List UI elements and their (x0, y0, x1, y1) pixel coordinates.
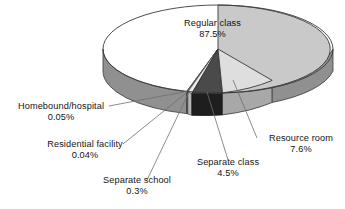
slice-label-residential-facility: Residential facility 0.04% (32, 139, 138, 162)
slice-label-separate-school: Separate school 0.3% (89, 175, 185, 198)
slice-label-resource-room: Resource room 7.6% (258, 133, 344, 156)
slice-label-homebound-hospital-name: Homebound/hospital (18, 101, 104, 111)
slice-label-separate-class-name: Separate class (197, 157, 259, 167)
slice-label-resource-room-name: Resource room (269, 133, 333, 143)
slice-separate-class (192, 49, 223, 94)
slice-label-separate-school-name: Separate school (103, 175, 171, 185)
slice-label-residential-facility-percent: 0.04% (32, 150, 138, 161)
slice-label-resource-room-percent: 7.6% (258, 144, 344, 155)
slice-label-separate-school-percent: 0.3% (89, 186, 185, 197)
slice-label-homebound-hospital-percent: 0.05% (2, 112, 120, 123)
slice-label-residential-facility-name: Residential facility (47, 139, 123, 149)
slice-label-homebound-hospital: Homebound/hospital 0.05% (2, 101, 120, 124)
side-wall-separate-school (188, 92, 192, 115)
side-wall-separate-class (192, 93, 223, 116)
pie-chart: Regular class 87.5% Resource room 7.6% S… (0, 0, 345, 209)
slice-label-regular-class: Regular class 87.5% (160, 18, 265, 41)
slice-label-regular-class-percent: 87.5% (160, 29, 265, 40)
slice-label-regular-class-name: Regular class (184, 18, 241, 28)
slice-label-separate-class: Separate class 4.5% (182, 157, 274, 180)
slice-label-separate-class-percent: 4.5% (182, 168, 274, 179)
